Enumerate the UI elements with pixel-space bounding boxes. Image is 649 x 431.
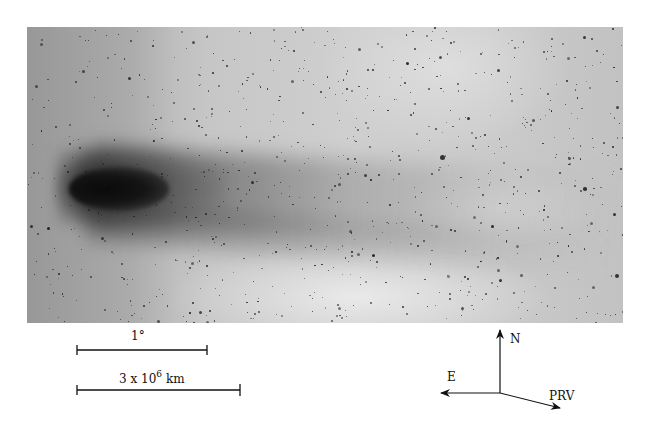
compass-east-label: E (447, 371, 456, 383)
annotations (0, 0, 649, 431)
scale-bar-distance (77, 384, 240, 396)
scale-bar-distance-label: 3 x 106 km (119, 370, 185, 385)
scale-bar-distance-unit: km (166, 372, 185, 386)
scale-bar-degree-label: 1° (131, 330, 145, 342)
scale-bar-degree (77, 345, 207, 355)
scale-bar-distance-exponent: 6 (156, 369, 162, 379)
scale-bar-distance-base: 3 x 10 (119, 372, 156, 386)
figure: 1° 3 x 106 km N E PRV (0, 0, 649, 431)
compass-north-label: N (510, 333, 521, 345)
compass-prv-label: PRV (549, 390, 574, 402)
compass (441, 330, 560, 408)
